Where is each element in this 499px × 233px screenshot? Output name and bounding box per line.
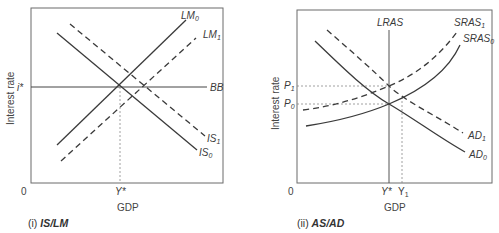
y-axis-label: Interest rate xyxy=(5,71,16,125)
lm1-line xyxy=(61,38,196,161)
sras0-curve xyxy=(306,45,460,126)
lm0-line xyxy=(57,20,186,145)
ad1-label: AD1 xyxy=(467,130,486,142)
lm1-label: LM1 xyxy=(203,29,221,41)
ystar-tick: Y* xyxy=(115,186,127,197)
plot-frame xyxy=(31,8,223,183)
ad0-curve xyxy=(315,41,465,152)
istar-tick: i* xyxy=(17,82,24,93)
x-axis-label: GDP xyxy=(117,202,139,213)
ad0-label: AD0 xyxy=(468,149,487,161)
p1-tick: P1 xyxy=(284,80,295,92)
ystar-tick: Y* xyxy=(381,186,393,197)
origin-label: 0 xyxy=(288,186,294,197)
x-axis-label: GDP xyxy=(384,202,406,213)
y1-tick: Y1 xyxy=(398,186,409,198)
is0-line xyxy=(57,33,197,150)
figure: LM0 LM1 BB IS1 IS0 i* Interest rate 0 Y*… xyxy=(0,0,499,233)
y-axis-label: Interest rate xyxy=(270,76,281,130)
chart-is-lm: LM0 LM1 BB IS1 IS0 i* Interest rate 0 Y*… xyxy=(5,8,224,229)
is1-line xyxy=(70,24,205,136)
lm0-label: LM0 xyxy=(181,10,199,22)
p0-tick: P0 xyxy=(284,98,295,110)
origin-label: 0 xyxy=(21,186,27,197)
sras1-label: SRAS1 xyxy=(454,17,485,29)
is1-label: IS1 xyxy=(207,133,220,145)
is0-label: IS0 xyxy=(199,147,212,159)
lras-label: LRAS xyxy=(377,17,403,28)
bb-label: BB xyxy=(210,82,224,93)
chart-as-ad: LRAS SRAS1 SRAS0 AD1 AD0 P1 P0 Interest … xyxy=(270,10,494,229)
sras0-label: SRAS0 xyxy=(463,33,494,45)
caption: (i) IS/LM xyxy=(28,217,69,229)
caption: (ii) AS/AD xyxy=(297,217,345,229)
